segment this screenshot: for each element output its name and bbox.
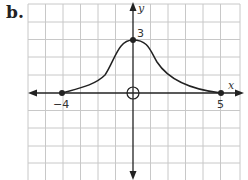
x-axis-label: x	[228, 79, 235, 92]
y-axis-up-arrow-icon	[130, 2, 137, 11]
tick-label-5: 5	[217, 98, 224, 111]
tick-label-neg4: −4	[53, 98, 69, 111]
point-neg4-0	[59, 90, 65, 96]
tick-label-3: 3	[137, 27, 144, 40]
point-0-3	[130, 37, 136, 43]
y-axis-label: y	[137, 2, 145, 15]
point-5-0	[218, 90, 224, 96]
graph: x y −4 5 3	[0, 0, 248, 180]
x-axis-left-arrow-icon	[28, 90, 37, 97]
curve	[62, 40, 221, 93]
y-axis-down-arrow-icon	[130, 171, 137, 180]
